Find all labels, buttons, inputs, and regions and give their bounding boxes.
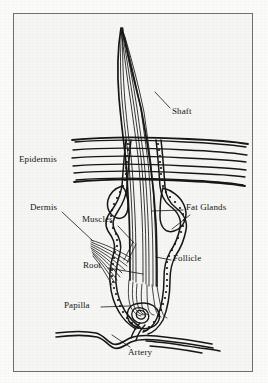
label-fat-glands: Fat Glands — [186, 202, 226, 212]
label-artery: Artery — [128, 347, 152, 357]
label-follicle: Follicle — [173, 253, 201, 263]
label-papilla: Papilla — [64, 300, 90, 310]
label-epidermis: Epidermis — [19, 154, 57, 164]
label-shaft: Shaft — [172, 106, 192, 116]
label-muscles: Muscles — [82, 214, 113, 224]
label-root: Root — [83, 260, 101, 270]
diagram-frame — [13, 13, 253, 372]
label-dermis: Dermis — [30, 202, 57, 212]
diagram-page: Shaft Epidermis Fat Glands Dermis Muscle… — [0, 0, 268, 383]
